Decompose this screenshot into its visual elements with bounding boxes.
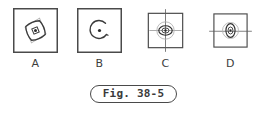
panel-label-a: A [13,57,58,70]
panel-a [13,8,58,53]
panel-b [77,8,122,53]
panel-b-hook [107,35,109,36]
figure-container: A B C D Fig. 38-5 [0,0,267,113]
panel-label-b: B [77,57,122,70]
caption-label: Fig. 38-5 [90,85,177,103]
panel-d [208,8,253,53]
panel-label-d: D [208,57,253,70]
panel-label-c: C [143,57,188,70]
panel-b-center-dot [98,29,101,32]
panel-c [143,8,188,53]
panel-c-drawing [143,8,188,53]
panel-a-drawing [13,8,58,53]
panel-d-center-dot [229,29,231,31]
panel-c-center-dot [164,29,166,31]
panel-d-drawing [208,8,253,53]
figure-caption: Fig. 38-5 [90,85,179,105]
panel-b-drawing [77,8,122,53]
panel-a-center-dot [34,29,37,32]
